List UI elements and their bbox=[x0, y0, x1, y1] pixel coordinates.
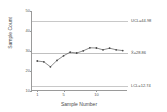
x-axis-title: Sample Number bbox=[31, 101, 127, 107]
series-point bbox=[102, 49, 104, 51]
series-point bbox=[96, 47, 98, 49]
series-point bbox=[50, 66, 52, 68]
series-point bbox=[69, 51, 71, 53]
series-point bbox=[76, 52, 78, 54]
series-point bbox=[109, 47, 111, 49]
y-tick-label: 50 bbox=[14, 9, 30, 13]
y-tick-label: 30 bbox=[14, 49, 30, 53]
series-point bbox=[63, 55, 65, 57]
series-point bbox=[56, 60, 58, 62]
y-axis-title: Sample Count bbox=[7, 3, 13, 63]
x-tick-label: 10 bbox=[94, 93, 98, 97]
x-tick-label: 1 bbox=[36, 93, 38, 97]
series-point bbox=[36, 60, 38, 62]
series-point bbox=[115, 49, 117, 51]
series-point bbox=[82, 50, 84, 52]
y-tick-label: 40 bbox=[14, 29, 30, 33]
y-tick-label: 20 bbox=[14, 69, 30, 73]
y-tick-label: 10 bbox=[14, 89, 30, 93]
y-tick-mark bbox=[30, 91, 32, 92]
data-series bbox=[32, 11, 128, 91]
plot-inner: 1020304050 1510 bbox=[32, 11, 127, 90]
series-point bbox=[43, 61, 45, 63]
series-point bbox=[89, 47, 91, 49]
label-ucl: UCL=44.98 bbox=[131, 19, 151, 23]
series-line bbox=[37, 48, 122, 67]
series-point bbox=[122, 50, 124, 52]
plot-area: 1020304050 1510 bbox=[31, 11, 127, 91]
control-chart: 1020304050 1510 UCL=44.98X̄=28.86LCL=12.… bbox=[0, 0, 167, 112]
x-tick-label: 5 bbox=[62, 93, 64, 97]
label-lcl: LCL=12.74 bbox=[131, 84, 151, 88]
label-center: X̄=28.86 bbox=[131, 51, 146, 55]
